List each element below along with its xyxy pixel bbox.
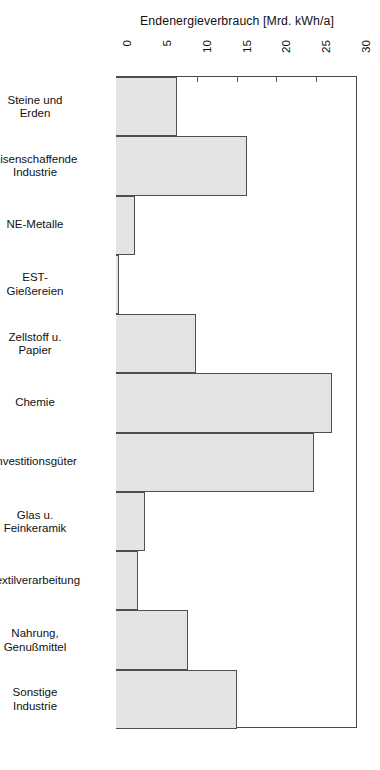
bar — [116, 492, 145, 551]
category-label-line: Genußmittel — [0, 640, 105, 654]
bar — [116, 314, 196, 373]
category-label: Chemie — [0, 396, 105, 410]
bar-row — [116, 610, 357, 669]
bar-row — [116, 373, 357, 432]
category-label: Textilverarbeitung — [0, 574, 105, 588]
category-label: Steine undErden — [0, 93, 105, 120]
bar — [116, 255, 119, 314]
x-axis-tick-label: 10 — [201, 40, 213, 53]
category-label: Glas u.Feinkeramik — [0, 508, 105, 535]
category-label: NE-Metalle — [0, 218, 105, 232]
bar-row — [116, 314, 357, 373]
bars-container — [116, 77, 357, 727]
category-label: Nahrung,Genußmittel — [0, 627, 105, 654]
bar-row — [116, 670, 357, 729]
bar — [116, 77, 177, 136]
bar-row — [116, 433, 357, 492]
x-axis-tick-label: 5 — [161, 40, 173, 46]
category-label-line: Industrie — [0, 699, 105, 713]
category-label-line: Feinkeramik — [0, 522, 105, 536]
category-label: EST-Gießereien — [0, 271, 105, 298]
category-label-line: EST- — [0, 271, 105, 285]
category-label-line: NE-Metalle — [0, 218, 105, 232]
x-axis-tick-label: 25 — [320, 40, 332, 53]
category-label: SonstigeIndustrie — [0, 686, 105, 713]
bar — [116, 551, 138, 610]
category-label-line: Nahrung, — [0, 627, 105, 641]
category-label-line: Gießereien — [0, 284, 105, 298]
category-label-line: Textilverarbeitung — [0, 574, 105, 588]
bar — [116, 373, 332, 432]
category-label-line: Papier — [0, 344, 105, 358]
bar — [116, 610, 188, 669]
bar-row — [116, 551, 357, 610]
category-label-line: Zellstoff u. — [0, 330, 105, 344]
bar-row — [116, 136, 357, 195]
category-label: Investitionsgüter — [0, 456, 105, 470]
bar — [116, 670, 237, 729]
x-axis-tick-label: 0 — [121, 40, 133, 46]
bar-row — [116, 255, 357, 314]
category-label-line: Industrie — [0, 166, 105, 180]
y-axis-category-labels: Steine undErdenEisenschaffendeIndustrieN… — [0, 77, 113, 727]
bar-row — [116, 77, 357, 136]
category-label-line: Investitionsgüter — [0, 456, 105, 470]
category-label-line: Glas u. — [0, 508, 105, 522]
bar — [116, 433, 314, 492]
category-label: Zellstoff u.Papier — [0, 330, 105, 357]
category-label-line: Sonstige — [0, 686, 105, 700]
category-label-line: Eisenschaffende — [0, 152, 105, 166]
chart-title: Endenergieverbrauch [Mrd. kWh/a] — [116, 14, 358, 28]
category-label-line: Steine und — [0, 93, 105, 107]
bar — [116, 196, 135, 255]
category-label-line: Chemie — [0, 396, 105, 410]
bar-chart: Endenergieverbrauch [Mrd. kWh/a] 0510152… — [0, 0, 380, 770]
category-label: EisenschaffendeIndustrie — [0, 152, 105, 179]
x-axis-tick-label: 30 — [360, 40, 372, 53]
bar-row — [116, 196, 357, 255]
bar-row — [116, 492, 357, 551]
x-axis-tick-label: 20 — [280, 40, 292, 53]
x-axis-tick-label: 15 — [241, 40, 253, 53]
bar — [116, 136, 247, 195]
category-label-line: Erden — [0, 107, 105, 121]
